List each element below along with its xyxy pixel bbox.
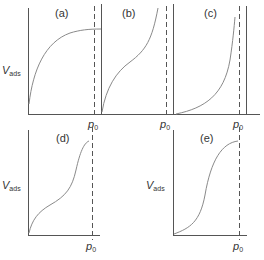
- panel-d-y-label: Vads: [2, 179, 21, 192]
- panel-d-label: (d): [56, 132, 69, 144]
- panel-b-label: (b): [122, 7, 135, 19]
- panel-e-label: (e): [200, 132, 213, 144]
- panel-e-p0-label: p0: [232, 240, 243, 253]
- adsorption-isotherm-figure: (a) Vads p0 (b) p0 (c) p0 (d) Vads p0: [0, 0, 264, 260]
- panel-e-y-label: Vads: [146, 179, 165, 192]
- panel-e: (e) Vads p0: [146, 127, 247, 253]
- panel-a-y-label: Vads: [2, 64, 21, 77]
- panel-d: (d) Vads p0: [2, 127, 100, 253]
- panel-a-label: (a): [55, 7, 68, 19]
- panel-c: (c) p0: [173, 4, 260, 131]
- panel-b: (b) p0: [101, 4, 173, 131]
- panel-b-p0-label: p0: [159, 118, 170, 131]
- panel-a-isotherm-curve: [29, 29, 101, 104]
- panel-e-isotherm-curve: [174, 141, 238, 234]
- panel-b-isotherm-curve: [102, 8, 158, 112]
- panel-d-isotherm-curve: [29, 141, 89, 233]
- panel-c-label: (c): [204, 7, 217, 19]
- panel-c-isotherm-curve: [176, 17, 235, 114]
- panel-d-p0-label: p0: [85, 240, 96, 253]
- panel-a: (a) Vads p0: [2, 6, 101, 131]
- panel-c-p0-label: p0: [232, 118, 243, 131]
